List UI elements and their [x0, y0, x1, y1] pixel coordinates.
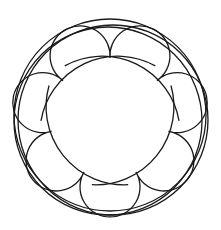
- extended-arc-7: [41, 56, 155, 121]
- extended-arc-1: [65, 56, 179, 121]
- extended-arc-5: [46, 85, 128, 184]
- extended-lobe-arcs: [41, 56, 179, 185]
- rosette-svg: [0, 0, 221, 230]
- extended-arc-3: [92, 85, 174, 184]
- rosette-diagram: [0, 0, 221, 230]
